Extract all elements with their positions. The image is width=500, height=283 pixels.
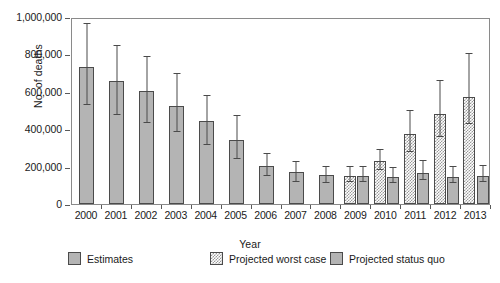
legend-swatch-icon <box>330 252 343 265</box>
error-bar-stem <box>409 111 410 152</box>
x-tick-label: 2009 <box>338 209 372 221</box>
error-bar <box>387 168 399 204</box>
x-tick-label: 2004 <box>189 209 223 221</box>
error-bar-cap-bottom <box>419 179 426 180</box>
error-bar <box>404 111 416 205</box>
error-bar-stem <box>379 150 380 171</box>
error-bar-cap-top <box>293 161 300 162</box>
legend-label: Projected status quo <box>349 253 445 265</box>
error-bar-cap-bottom <box>376 169 383 170</box>
error-bar-stem <box>146 57 147 122</box>
error-bar-stem <box>326 167 327 183</box>
error-bar-cap-top <box>406 110 413 111</box>
error-bar-stem <box>206 96 207 146</box>
error-bar-cap-top <box>376 149 383 150</box>
x-tick-label: 2012 <box>428 209 462 221</box>
error-bar <box>447 167 459 204</box>
legend-label: Projected worst case <box>229 253 326 265</box>
y-tick-label: 800,000 <box>0 48 62 60</box>
y-tick-mark <box>65 205 70 206</box>
error-bar-cap-top <box>83 23 90 24</box>
y-axis-title: No. of deaths <box>32 16 44 136</box>
error-bar-stem <box>439 81 440 137</box>
error-bar-stem <box>392 168 393 183</box>
y-tick-label: 200,000 <box>0 161 62 173</box>
x-tick-label: 2007 <box>278 209 312 221</box>
error-bar-stem <box>349 167 350 182</box>
error-bar-cap-bottom <box>479 181 486 182</box>
error-bar <box>417 161 429 204</box>
error-bar-stem <box>86 24 87 105</box>
legend-item-estimates: Estimates <box>68 252 133 265</box>
error-bar <box>169 74 184 204</box>
x-tick-label: 2002 <box>129 209 163 221</box>
x-tick-label: 2013 <box>458 209 492 221</box>
error-bar <box>229 116 244 204</box>
y-tick-mark <box>65 93 70 94</box>
legend-item-projected-status-quo: Projected status quo <box>330 252 445 265</box>
error-bar-cap-bottom <box>233 158 240 159</box>
error-bar-cap-bottom <box>346 181 353 182</box>
error-bar-cap-top <box>359 166 366 167</box>
error-bar-cap-top <box>203 95 210 96</box>
x-tick-label: 2010 <box>368 209 402 221</box>
y-tick-mark <box>65 55 70 56</box>
x-tick-label: 2003 <box>159 209 193 221</box>
error-bar <box>319 167 334 204</box>
x-tick-label: 2006 <box>249 209 283 221</box>
x-axis-title: Year <box>0 238 500 250</box>
error-bar-cap-top <box>143 56 150 57</box>
error-bar <box>374 150 386 204</box>
error-bar-stem <box>422 161 423 180</box>
error-bar <box>434 81 446 204</box>
error-bar-cap-top <box>323 166 330 167</box>
error-bar-stem <box>296 162 297 182</box>
error-bar-cap-top <box>436 80 443 81</box>
legend-label: Estimates <box>87 253 133 265</box>
error-bar-cap-bottom <box>406 151 413 152</box>
error-bar <box>139 57 154 204</box>
y-tick-label: 400,000 <box>0 123 62 135</box>
y-tick-mark <box>65 130 70 131</box>
error-bar-cap-top <box>346 166 353 167</box>
error-bar-cap-top <box>419 160 426 161</box>
error-bar-stem <box>236 116 237 159</box>
error-bar <box>357 167 369 204</box>
error-bar <box>289 162 304 204</box>
plot-area <box>71 18 490 205</box>
error-bar-cap-bottom <box>173 131 180 132</box>
y-tick-label: 600,000 <box>0 86 62 98</box>
error-bar-cap-bottom <box>436 136 443 137</box>
error-bar-cap-bottom <box>293 181 300 182</box>
x-tick-label: 2005 <box>219 209 253 221</box>
y-tick-mark <box>65 168 70 169</box>
error-bar <box>259 154 274 204</box>
error-bar-cap-bottom <box>143 122 150 123</box>
x-tick-label: 2008 <box>308 209 342 221</box>
error-bar <box>79 24 94 204</box>
legend-swatch-icon <box>210 252 223 265</box>
error-bar-stem <box>469 54 470 123</box>
error-bar-stem <box>266 154 267 176</box>
error-bar-cap-bottom <box>113 114 120 115</box>
y-tick-mark <box>65 18 70 19</box>
error-bar-stem <box>362 167 363 182</box>
error-bar-stem <box>116 46 117 115</box>
error-bar-cap-bottom <box>359 181 366 182</box>
error-bar-cap-top <box>479 165 486 166</box>
error-bar-cap-top <box>466 53 473 54</box>
error-bar <box>109 46 124 204</box>
chart-legend: EstimatesProjected worst caseProjected s… <box>0 252 500 272</box>
error-bar-cap-bottom <box>466 123 473 124</box>
y-tick-label: 1,000,000 <box>0 11 62 23</box>
error-bar-cap-top <box>263 153 270 154</box>
legend-item-projected-worst-case: Projected worst case <box>210 252 326 265</box>
legend-swatch-icon <box>68 252 81 265</box>
x-tick-label: 2001 <box>99 209 133 221</box>
error-bar-stem <box>452 167 453 183</box>
error-bar-cap-top <box>449 166 456 167</box>
x-tick-mark <box>490 205 491 209</box>
error-bar <box>344 167 356 204</box>
error-bar-stem <box>176 74 177 132</box>
x-tick-label: 2000 <box>69 209 103 221</box>
